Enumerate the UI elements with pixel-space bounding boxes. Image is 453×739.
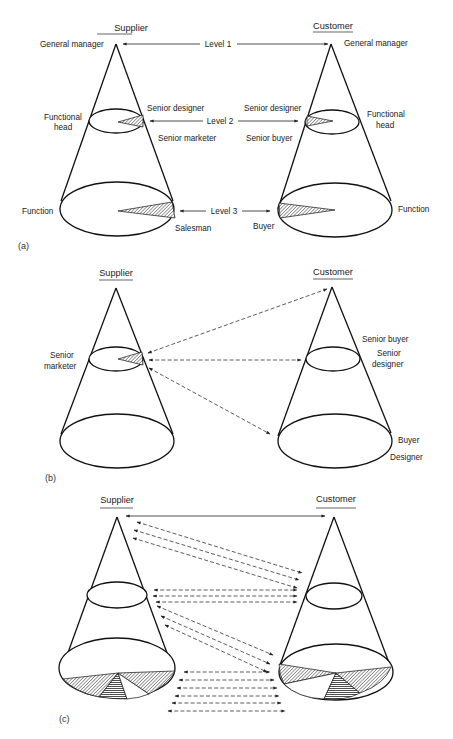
supplier-title-c: Supplier — [100, 495, 134, 505]
customer-designer-base-label-b: Designer — [390, 453, 423, 462]
level-1-label: Level 1 — [205, 40, 232, 49]
supplier-functional-label-1: Functional — [44, 113, 82, 122]
supplier-function-label: Function — [22, 207, 54, 216]
customer-senior-label-b: Senior — [377, 349, 401, 358]
panel-c: Supplier Customer — [59, 494, 393, 724]
customer-cone-c — [279, 517, 393, 700]
customer-title-a: Customer — [313, 21, 353, 31]
customer-function-label: Function — [398, 205, 430, 214]
supplier-cone-b — [60, 288, 174, 468]
apex-to-mid-arrows — [133, 522, 302, 588]
panel-a-tag: (a) — [18, 241, 29, 251]
customer-senior-buyer-label: Senior buyer — [246, 134, 293, 143]
supplier-title-a: Supplier — [114, 23, 148, 33]
level-3-label: Level 3 — [211, 207, 238, 216]
panel-c-tag: (c) — [59, 714, 70, 724]
panel-b: Supplier Customer Senior marketer Senior… — [44, 267, 423, 483]
level-2-label: Level 2 — [207, 117, 234, 126]
customer-senior-designer-label: Senior designer — [244, 104, 302, 113]
panel-b-tag: (b) — [45, 473, 56, 483]
supplier-title-b: Supplier — [99, 268, 133, 278]
supplier-general-manager-label: General manager — [40, 40, 104, 49]
supplier-marketer-label-b: marketer — [44, 362, 77, 371]
mid-to-mid-arrows — [153, 590, 297, 602]
customer-title-c: Customer — [316, 494, 356, 504]
customer-designer-label-b: designer — [372, 360, 404, 369]
customer-general-manager-label: General manager — [344, 39, 408, 48]
customer-buyer-label: Buyer — [253, 222, 275, 231]
customer-cone-b — [278, 287, 392, 468]
customer-cone-a — [278, 44, 392, 237]
customer-functional-label-1: Functional — [367, 110, 405, 119]
customer-functional-label-2: head — [376, 121, 395, 130]
customer-buyer-label-b: Buyer — [398, 436, 420, 445]
panel-a: Supplier Customer General manager Functi… — [18, 21, 430, 251]
customer-senior-buyer-label-b: Senior buyer — [362, 335, 409, 344]
customer-title-b: Customer — [313, 267, 353, 277]
supplier-functional-label-2: head — [54, 123, 73, 132]
supplier-senior-label-b: Senior — [50, 351, 74, 360]
supplier-customer-interaction-diagram: Supplier Customer General manager Functi… — [0, 0, 453, 739]
supplier-senior-marketer-label: Senior marketer — [158, 134, 217, 143]
supplier-senior-designer-label: Senior designer — [147, 104, 205, 113]
supplier-cone-c — [59, 517, 175, 699]
supplier-salesman-label: Salesman — [175, 224, 212, 233]
base-to-base-arrows — [168, 672, 285, 711]
